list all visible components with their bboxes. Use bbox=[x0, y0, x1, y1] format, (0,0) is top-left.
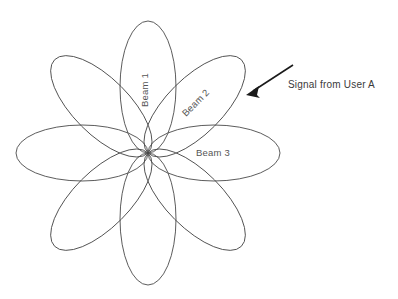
signal-annotation-label: Signal from User A bbox=[288, 79, 375, 90]
arrow-shaft-line bbox=[253, 65, 293, 91]
figure-canvas: Beam 1 Beam 2 Beam 3 Signal from User A bbox=[0, 0, 398, 299]
petal-group bbox=[16, 21, 280, 285]
beam-3-label: Beam 3 bbox=[196, 147, 230, 158]
beam-2-label: Beam 2 bbox=[180, 87, 212, 119]
beam-pattern-diagram: Beam 1 Beam 2 Beam 3 Signal from User A bbox=[0, 0, 398, 299]
signal-arrow bbox=[246, 65, 293, 98]
arrow-head-icon bbox=[246, 86, 260, 98]
beam-1-label: Beam 1 bbox=[139, 73, 150, 107]
